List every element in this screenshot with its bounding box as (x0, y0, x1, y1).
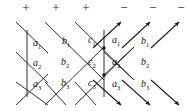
crossing-node (102, 46, 105, 49)
signed-lattice-figure: + + + − − − a1 b1 c1 a1 b1 a2 b2 c2 a2 b… (0, 0, 187, 111)
node-label-sub: 1 (146, 41, 149, 48)
node-label-sub: 1 (117, 40, 120, 47)
node-label-sub: 3 (117, 84, 120, 91)
node-label: c1 (88, 35, 96, 45)
node-label: a2 (33, 58, 41, 68)
arrow-up-right-group (93, 22, 179, 48)
plus-sign: + (79, 0, 93, 16)
arrow-up-right (151, 22, 179, 48)
down-right-line (16, 22, 48, 53)
node-label: b2 (61, 57, 69, 67)
node-label: a2 (112, 57, 120, 67)
node-label-sub: 1 (92, 40, 95, 47)
down-right-line (45, 22, 104, 80)
node-label-sub: 3 (92, 83, 95, 90)
up-right-line (16, 74, 48, 105)
arrow-down-right (151, 80, 179, 105)
up-right-line (45, 47, 104, 105)
minus-sign: − (117, 0, 131, 16)
node-label-sub: 2 (66, 62, 69, 69)
node-label: c2 (88, 57, 96, 67)
node-label-sub: 3 (146, 84, 149, 91)
node-label-sub: 2 (117, 62, 120, 69)
node-label: a3 (112, 79, 120, 89)
minus-sign: − (174, 0, 187, 16)
node-label-sub: 3 (66, 83, 69, 90)
node-label-sub: 2 (92, 62, 95, 69)
node-label-sub: 2 (146, 62, 149, 69)
down-right-line (16, 82, 48, 105)
crossing-node (102, 73, 105, 76)
node-label-sub: 1 (38, 43, 41, 50)
node-label: a3 (33, 79, 41, 89)
node-label-sub: 2 (38, 63, 41, 70)
node-label: b3 (141, 79, 149, 89)
node-label: a1 (33, 38, 41, 48)
node-label-sub: 3 (38, 84, 41, 91)
node-label: a1 (112, 35, 120, 45)
node-label: b1 (141, 36, 149, 46)
node-label: b1 (62, 36, 70, 46)
minus-sign: − (146, 0, 160, 16)
arrow-down-right-group (93, 80, 179, 105)
node-label: b2 (141, 57, 149, 67)
plus-sign: + (19, 0, 33, 16)
node-label-sub: 1 (67, 41, 70, 48)
node-label: b3 (61, 78, 69, 88)
sign-row: + + + − − − (0, 0, 187, 20)
plus-sign: + (49, 0, 63, 16)
node-label: c3 (88, 78, 96, 88)
